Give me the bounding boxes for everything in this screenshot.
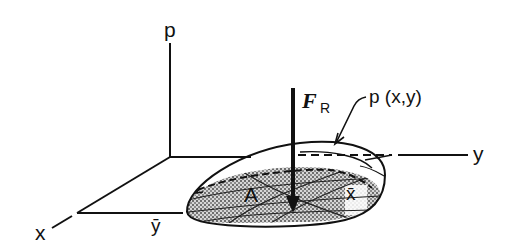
x-bar-label: x̄ (346, 183, 356, 204)
y-bar-label: ȳ (151, 215, 161, 236)
pressure-distribution-diagram: p y x F R p (x,y) A x̄ ȳ (0, 0, 513, 250)
force-symbol: F (301, 88, 317, 113)
pressure-surface (187, 142, 392, 230)
force-subscript: R (320, 100, 330, 116)
x-axis-label: x (35, 221, 46, 244)
y-axis-label: y (473, 142, 484, 165)
load-function-label: p (x,y) (369, 86, 422, 107)
load-function-leader (335, 97, 366, 144)
y-axis (170, 155, 468, 157)
p-axis-label: p (164, 18, 176, 41)
area-label: A (244, 183, 258, 206)
